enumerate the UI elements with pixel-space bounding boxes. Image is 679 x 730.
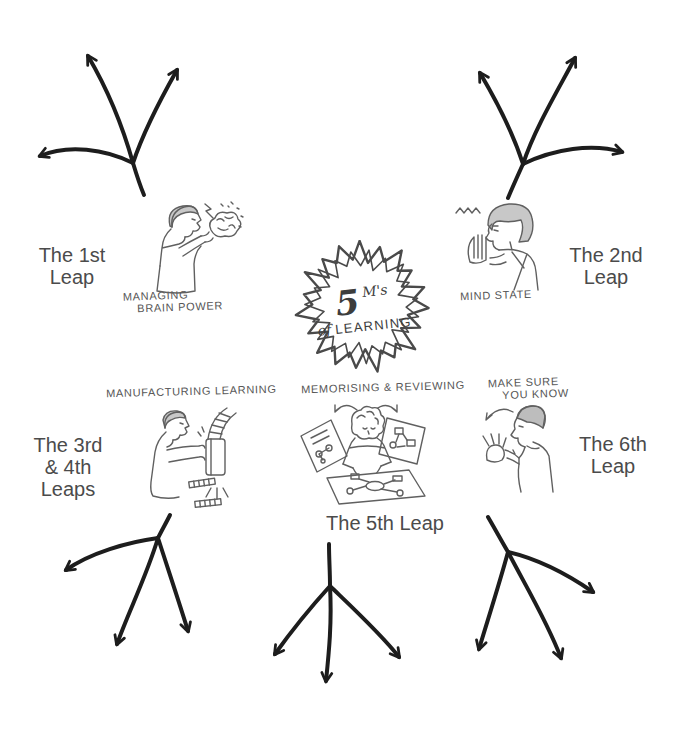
managing-brain-power-illustration: [133, 196, 245, 296]
three-branch-arrow-top-left: [20, 28, 220, 203]
three-branch-arrow-bottom-center: [258, 540, 418, 692]
badge-number: 5: [334, 286, 361, 318]
caption-manufacturing-learning: MANUFACTURING LEARNING: [106, 383, 277, 399]
memorising-reviewing-illustration: [293, 400, 438, 505]
center-badge-text: 5 M's ofLEARNING: [281, 233, 445, 388]
manufacturing-learning-illustration: [133, 404, 248, 512]
make-sure-you-know-illustration: [473, 402, 573, 497]
badge-m-label: M's: [361, 281, 388, 300]
label-2nd-leap: The 2nd Leap: [558, 244, 654, 288]
three-branch-arrow-top-right: [450, 40, 645, 205]
label-3rd-4th-leaps: The 3rd & 4th Leaps: [20, 434, 116, 500]
five-ms-of-learning-diagram: 5 M's ofLEARNING The 1st Leap The 2nd Le…: [0, 0, 679, 730]
label-1st-leap: The 1st Leap: [24, 244, 120, 288]
badge-of-label: of: [317, 321, 332, 338]
three-branch-arrow-bottom-left: [48, 503, 203, 658]
caption-make-sure-you-know: MAKE SURE YOU KNOW: [488, 375, 570, 402]
label-5th-leap: The 5th Leap: [315, 512, 455, 534]
label-6th-leap: The 6th Leap: [568, 433, 658, 477]
three-branch-arrow-bottom-right: [463, 503, 610, 668]
mind-state-illustration: [452, 198, 557, 293]
